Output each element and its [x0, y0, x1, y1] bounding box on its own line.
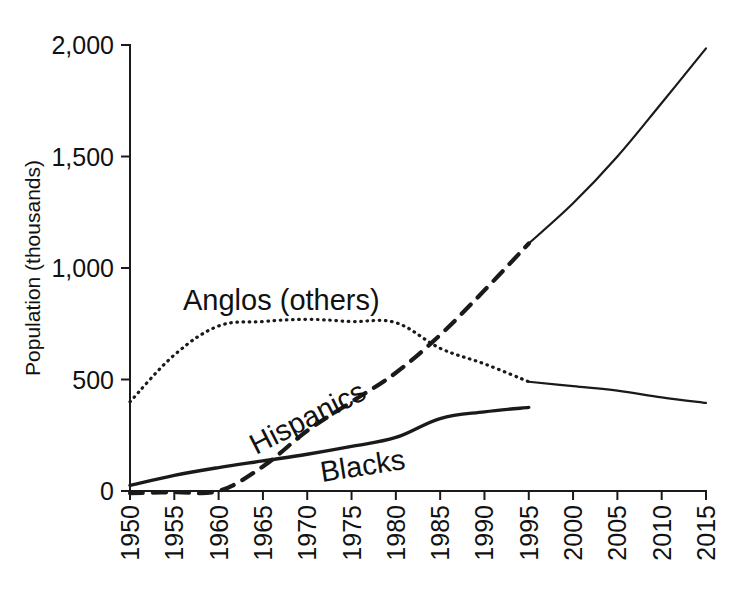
y-tick-label: 500 — [72, 366, 114, 394]
y-tick-label: 0 — [100, 477, 114, 505]
series-line-hispanics-projected — [529, 48, 706, 243]
x-tick-label: 1990 — [470, 505, 498, 561]
x-tick-label: 2015 — [692, 505, 720, 561]
x-tick-label: 1975 — [338, 505, 366, 561]
population-projection-chart: 05001,0001,5002,000 Population (thousand… — [0, 0, 748, 600]
x-axis-tick-labels: 1950195519601965197019751980198519901995… — [116, 505, 720, 561]
x-tick-label: 2005 — [603, 505, 631, 561]
x-tick-label: 1950 — [116, 505, 144, 561]
chart-canvas: 05001,0001,5002,000 Population (thousand… — [0, 0, 748, 600]
x-tick-label: 1995 — [515, 505, 543, 561]
series-label-anglos-others: Anglos (others) — [183, 284, 380, 316]
x-tick-label: 1985 — [426, 505, 454, 561]
x-tick-label: 2010 — [648, 505, 676, 561]
y-axis-group: 05001,0001,5002,000 Population (thousand… — [21, 31, 130, 505]
series-group — [130, 48, 706, 493]
y-axis-tick-labels: 05001,0001,5002,000 — [51, 31, 114, 505]
x-tick-label: 1970 — [293, 505, 321, 561]
x-tick-label: 1980 — [382, 505, 410, 561]
y-tick-label: 2,000 — [51, 31, 114, 59]
series-line-anglos-projected — [529, 382, 706, 403]
x-axis-ticks — [130, 491, 706, 500]
x-tick-label: 1965 — [249, 505, 277, 561]
x-tick-label: 1960 — [205, 505, 233, 561]
x-axis-group: 1950195519601965197019751980198519901995… — [116, 491, 720, 561]
y-axis-title: Population (thousands) — [21, 160, 44, 376]
x-tick-label: 1955 — [160, 505, 188, 561]
y-axis-ticks — [121, 45, 130, 491]
y-tick-label: 1,500 — [51, 143, 114, 171]
y-tick-label: 1,000 — [51, 254, 114, 282]
x-tick-label: 2000 — [559, 505, 587, 561]
